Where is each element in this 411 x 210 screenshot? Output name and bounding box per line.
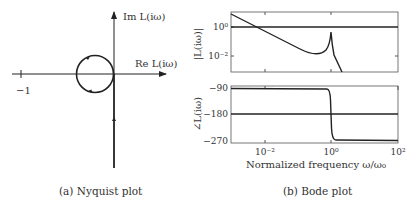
bode-magnitude-plot: 10⁰ 10⁻² |L(iω)| [192,12,398,72]
arrow-icon [112,117,116,121]
phase-ylabel: ∠L(iω) [192,97,203,131]
magnitude-curve [231,14,342,72]
nyquist-caption: (a) Nyquist plot [59,185,142,197]
svg-text:10⁰: 10⁰ [323,147,338,157]
nyquist-plot: Im L(iω) Re L(iω) −1 [12,11,178,168]
svg-text:−180: −180 [203,109,228,119]
svg-text:−270: −270 [203,136,228,146]
magnitude-ylabel: |L(iω)| [192,28,204,61]
bode-caption: (b) Bode plot [283,185,352,197]
minus-one-label: −1 [16,85,31,96]
re-label: Re L(iω) [135,58,178,69]
svg-text:−90: −90 [209,83,228,93]
im-label: Im L(iω) [123,11,166,22]
bode-phase-plot: −90 −180 −270 ∠L(iω) 10⁻² 10⁰ 10² Normal… [192,83,406,170]
figure: Im L(iω) Re L(iω) −1 10⁰ 10⁻² |L(iω)| −9… [0,0,411,210]
svg-text:10⁻²: 10⁻² [255,147,275,157]
svg-text:10⁻²: 10⁻² [208,51,228,61]
xlabel: Normalized frequency ω/ω₀ [246,159,386,170]
svg-text:10²: 10² [390,147,405,157]
svg-text:10⁰: 10⁰ [213,22,228,32]
